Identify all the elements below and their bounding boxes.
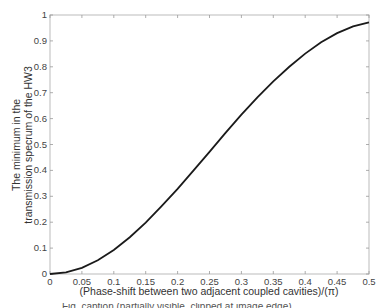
svg-text:transmission specrum of the HW: transmission specrum of the HW3	[22, 66, 34, 224]
y-tick-label: 0.9	[34, 35, 47, 46]
y-tick-label: 0.3	[34, 190, 47, 201]
plot-area	[50, 15, 369, 274]
y-tick-label: 0.4	[34, 164, 47, 175]
y-tick-label: 0.6	[34, 113, 47, 124]
y-tick-label: 0.8	[34, 61, 47, 72]
y-tick-labels: 00.10.20.30.40.50.60.70.80.91	[34, 9, 47, 279]
y-tick-label: 0	[42, 268, 47, 279]
line-chart: 00.050.10.150.20.250.30.350.40.450.5 00.…	[0, 0, 387, 308]
y-tick-label: 0.2	[34, 216, 47, 227]
y-tick-label: 0.1	[34, 242, 47, 253]
y-tick-label: 1	[42, 9, 47, 20]
y-axis-label: The minimum in the transmission specrum …	[10, 66, 34, 224]
x-tick-label: 0	[47, 276, 52, 287]
y-tick-label: 0.7	[34, 87, 47, 98]
clipped-caption: Fig. caption (partially visible, clipped…	[62, 303, 302, 308]
x-tick-label: 0.5	[362, 276, 375, 287]
x-axis-label: (Phase-shift between two adjacent couple…	[80, 285, 339, 297]
y-tick-label: 0.5	[34, 139, 47, 150]
svg-text:The minimum in the: The minimum in the	[10, 99, 22, 191]
